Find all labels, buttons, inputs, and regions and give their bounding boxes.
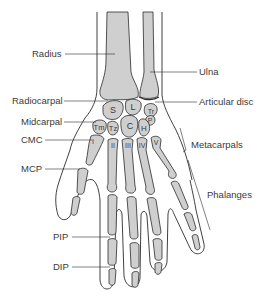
metacarpal-numeral-4: IV <box>139 142 146 149</box>
metacarpal-1 <box>86 135 104 165</box>
label-dip: DIP <box>53 262 69 272</box>
little-middle-phalanx <box>184 213 196 231</box>
middle-distal-phalanx <box>132 272 139 288</box>
ring-distal-phalanx <box>155 263 162 275</box>
lunate-label: L <box>130 102 135 112</box>
label-pip: PIP <box>53 232 68 242</box>
metacarpal-numeral-1: I <box>92 138 94 145</box>
forearm-outline-right <box>162 12 192 180</box>
label-radius: Radius <box>32 49 62 59</box>
label-radiocarpal: Radiocarpal <box>12 96 63 106</box>
ring-middle-phalanx <box>153 239 162 261</box>
label-articular-disc: Articular disc <box>199 97 253 107</box>
hand-wrist-diagram: S L Tr P Tm Tz C H I II III IV V Radius … <box>0 0 266 301</box>
index-middle-phalanx <box>108 239 117 266</box>
capitate-label: C <box>127 121 134 131</box>
label-midcarpal: Midcarpal <box>21 117 62 127</box>
index-distal-phalanx <box>109 269 116 286</box>
middle-middle-phalanx <box>130 243 139 269</box>
ring-proximal-phalanx <box>147 198 161 235</box>
metacarpal-numeral-5: V <box>154 139 159 146</box>
label-metacarpals: Metacarpals <box>191 140 243 150</box>
triquetrum-label: Tr <box>148 108 155 115</box>
label-cmc: CMC <box>21 135 43 145</box>
trapezium-label: Tm <box>94 123 105 132</box>
hamate-label: H <box>141 124 147 133</box>
thumb-proximal-phalanx <box>77 168 88 194</box>
radius-bone <box>100 12 139 100</box>
index-proximal-phalanx <box>108 195 117 235</box>
scaphoid-label: S <box>110 105 116 115</box>
label-mcp: MCP <box>21 164 42 174</box>
trapezoid-label: Tz <box>109 124 118 133</box>
metacarpal-numeral-2: II <box>111 142 115 149</box>
thumb-distal-phalanx <box>71 197 80 216</box>
metacarpal-numeral-3: III <box>125 142 131 149</box>
little-distal-phalanx <box>192 235 200 250</box>
little-proximal-phalanx <box>171 181 188 209</box>
label-ulna: Ulna <box>199 67 219 77</box>
label-phalanges: Phalanges <box>207 190 252 200</box>
middle-proximal-phalanx <box>127 197 138 239</box>
ulna-bone <box>140 12 159 98</box>
pisiform-label: P <box>148 117 153 124</box>
hand-skeleton-illustration: S L Tr P Tm Tz C H I II III IV V <box>0 0 266 301</box>
